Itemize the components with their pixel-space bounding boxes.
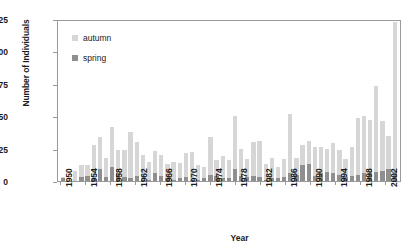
- y-axis-tick-mark: [53, 182, 57, 183]
- bar-group: [306, 21, 312, 181]
- bar-group: [134, 21, 140, 181]
- bar-group: [330, 21, 336, 181]
- bar-segment-autumn: [282, 159, 286, 177]
- stacked-bar: [331, 143, 335, 181]
- stacked-bar: [380, 121, 384, 181]
- bar-group: [257, 21, 263, 181]
- bar-segment-autumn: [276, 167, 280, 179]
- x-axis-tick-mark: [260, 182, 261, 185]
- bar-segment-autumn: [300, 145, 304, 166]
- stacked-bar: [276, 167, 280, 181]
- bar-segment-autumn: [307, 141, 311, 164]
- bar-segment-autumn: [104, 158, 108, 177]
- y-axis-title: Number of Individuals: [21, 0, 31, 133]
- bar-group: [349, 21, 355, 181]
- bar-segment-spring: [227, 178, 231, 181]
- stacked-bar: [300, 145, 304, 181]
- legend-item: autumn: [72, 31, 111, 44]
- stacked-bar: [374, 86, 378, 181]
- x-axis-tick-mark: [135, 182, 136, 185]
- bar-group: [220, 21, 226, 181]
- bar-segment-autumn: [288, 114, 292, 174]
- bar-group: [373, 21, 379, 181]
- bar-group: [294, 21, 300, 181]
- bar-group: [244, 21, 250, 181]
- bar-segment-autumn: [380, 121, 384, 170]
- bar-group: [140, 21, 146, 181]
- stacked-bar: [393, 22, 397, 181]
- legend-label-spring: spring: [83, 53, 106, 63]
- stacked-bar: [79, 165, 83, 181]
- y-axis-tick-label: 75: [0, 80, 8, 90]
- bar-group: [324, 21, 330, 181]
- bar-segment-autumn: [251, 142, 255, 176]
- y-axis-tick-label: 50: [0, 112, 8, 122]
- bar-group: [165, 21, 171, 181]
- bar-segment-spring: [325, 172, 329, 181]
- bar-group: [214, 21, 220, 181]
- x-axis-tick-mark: [60, 182, 61, 185]
- bar-segment-spring: [202, 178, 206, 181]
- bar-segment-autumn: [331, 143, 335, 173]
- bar-segment-spring: [104, 177, 108, 181]
- y-axis-tick-label: 125: [0, 15, 8, 25]
- stacked-bar: [282, 159, 286, 181]
- x-axis-tick-mark: [85, 182, 86, 185]
- bar-segment-spring: [300, 165, 304, 181]
- bar-segment-autumn: [356, 118, 360, 175]
- bar-group: [318, 21, 324, 181]
- bar-group: [115, 21, 121, 181]
- bar-segment-autumn: [386, 136, 390, 170]
- legend-swatch-autumn: [72, 35, 78, 41]
- stacked-bar: [233, 116, 237, 181]
- bar-segment-spring: [184, 177, 188, 181]
- bar-segment-autumn: [368, 120, 372, 173]
- bar-group: [343, 21, 349, 181]
- bar-segment-spring: [380, 171, 384, 181]
- x-axis-tick-label: 1990: [314, 168, 324, 187]
- bar-segment-autumn: [362, 116, 366, 173]
- x-axis-tick-mark: [185, 182, 186, 185]
- bar-segment-autumn: [184, 153, 188, 178]
- bar-group: [201, 21, 207, 181]
- x-axis-tick-mark: [335, 182, 336, 185]
- bar-group: [269, 21, 275, 181]
- bar-group: [281, 21, 287, 181]
- x-axis-tick-mark: [160, 182, 161, 185]
- bar-group: [146, 21, 152, 181]
- x-axis-tick-label: 1962: [139, 168, 149, 187]
- bar-segment-spring: [233, 169, 237, 181]
- bar-chart-figure: Number of Individuals 0255075100125 1950…: [0, 0, 413, 249]
- bar-segment-autumn: [98, 137, 102, 169]
- bar-segment-autumn: [153, 151, 157, 173]
- bar-segment-autumn: [350, 147, 354, 176]
- bar-segment-spring: [350, 176, 354, 181]
- bar-group: [128, 21, 134, 181]
- bar-group: [361, 21, 367, 181]
- bar-segment-autumn: [110, 127, 114, 167]
- x-axis-tick-mark: [235, 182, 236, 185]
- bar-segment-spring: [128, 178, 132, 181]
- bar-group: [177, 21, 183, 181]
- stacked-bar: [178, 163, 182, 181]
- y-axis-tick-label: 0: [0, 177, 8, 187]
- bar-segment-spring: [153, 173, 157, 181]
- chart-legend: autumn spring: [72, 31, 111, 71]
- stacked-bar: [307, 141, 311, 181]
- bar-segment-autumn: [393, 22, 397, 172]
- y-axis-tick-label: 25: [0, 145, 8, 155]
- bar-group: [60, 21, 66, 181]
- bar-group: [355, 21, 361, 181]
- bar-group: [386, 21, 392, 181]
- legend-label-autumn: autumn: [83, 33, 111, 43]
- x-axis-tick-mark: [385, 182, 386, 185]
- x-axis-tick-label: 1978: [239, 168, 249, 187]
- x-axis-tick-mark: [310, 182, 311, 185]
- bar-segment-spring: [208, 175, 212, 181]
- bar-group: [226, 21, 232, 181]
- stacked-bar: [153, 151, 157, 181]
- bar-segment-spring: [251, 176, 255, 181]
- bar-segment-autumn: [233, 116, 237, 169]
- bar-group: [275, 21, 281, 181]
- legend-swatch-spring: [72, 55, 78, 61]
